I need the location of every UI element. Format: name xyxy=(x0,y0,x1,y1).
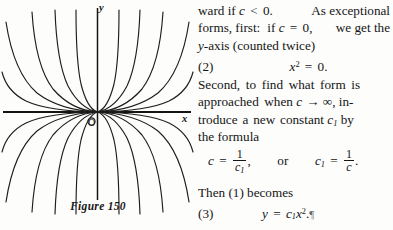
exponent-2: 2 xyxy=(295,60,299,69)
equation-3-tag: (3) xyxy=(198,205,224,222)
infinity-symbol: ∞ xyxy=(323,94,332,109)
origin-label: O xyxy=(88,117,95,128)
equation-2-rhs: 0. xyxy=(318,59,328,74)
equals-sign: = xyxy=(328,153,339,168)
equals-sign: = xyxy=(271,206,282,221)
period: . xyxy=(355,153,358,168)
parabola-curves-lower-right xyxy=(98,112,194,214)
line2-tail: we get the xyxy=(336,19,390,36)
var-c: c xyxy=(208,153,214,168)
fraction-one-over-c: 1 c xyxy=(344,148,354,173)
text-line-8: Then (1) becomes xyxy=(198,184,393,201)
comma: , xyxy=(247,153,250,168)
fraction-numerator: 1 xyxy=(233,148,247,160)
text-line-4: Second, to find what form is xyxy=(198,76,393,93)
var-y: y xyxy=(262,206,268,221)
text-line-3: y-axis (counted twice) xyxy=(198,37,393,54)
paragraph-mark-icon: ¶ xyxy=(309,208,314,220)
right-arrow-icon: → xyxy=(305,94,319,109)
line2-lead: forms, first xyxy=(198,20,257,35)
equals-sign: = xyxy=(217,153,228,168)
equation-3-row: (3) y = c1x2.¶ xyxy=(198,203,393,226)
parabola-curves-lower-left xyxy=(2,112,98,214)
fraction-equation-row: c = 1 c1 , or c1 = 1 c . xyxy=(198,148,393,176)
line2-if: if xyxy=(267,20,275,35)
text-line-5: approached when c → ∞, in- xyxy=(198,93,393,110)
line3-rest: -axis (counted twice) xyxy=(204,38,315,53)
line7-text: the formula xyxy=(198,129,259,144)
figure-panel: y x Figure 150 xyxy=(0,0,196,230)
y-axis-label: y xyxy=(99,2,104,13)
fraction-denominator: c1 xyxy=(233,161,247,175)
equals-sign: = xyxy=(288,20,299,35)
text-line-7: the formula xyxy=(198,128,393,145)
parabola-curves-upper-left xyxy=(2,10,98,112)
subscript-1: 1 xyxy=(333,119,337,128)
var-c: c xyxy=(239,3,245,18)
equation-2-body: x2 = 0. xyxy=(224,56,393,75)
equation-2-tag: (2) xyxy=(198,58,224,75)
fraction-equation-body: c = 1 c1 , or c1 = 1 c . xyxy=(198,148,393,176)
equals-sign: = xyxy=(303,59,314,74)
body-text-column: ward if c < 0. As exceptional forms, fir… xyxy=(198,0,393,230)
equation-2-row: (2) x2 = 0. xyxy=(198,56,393,75)
or-word: or xyxy=(277,153,288,168)
text-line-2: forms, first:if c = 0, we get the xyxy=(198,19,393,36)
equation-3-body: y = c1x2.¶ xyxy=(224,203,393,226)
less-than-sign: < xyxy=(248,3,259,18)
colon: : xyxy=(257,20,261,35)
fraction-denominator: c xyxy=(344,161,354,173)
text-line-1: ward if c < 0. As exceptional xyxy=(198,2,393,19)
fraction-one-over-c1: 1 c1 xyxy=(233,148,247,176)
parabola-family-diagram xyxy=(0,0,196,230)
figure-caption: Figure 150 xyxy=(0,200,196,212)
textbook-page-fragment: y x Figure 150 ward if c < 0. As excepti… xyxy=(0,0,393,230)
x-axis-label: x xyxy=(182,113,187,124)
line6-lead: troduce a new constant xyxy=(198,112,324,127)
var-c: c xyxy=(279,20,285,35)
fraction-numerator: 1 xyxy=(344,148,354,160)
line1-lead: ward if xyxy=(198,3,236,18)
line8-text: Then (1) becomes xyxy=(198,185,293,200)
parabola-curves-upper-right xyxy=(98,10,194,112)
var-c: c xyxy=(296,94,302,109)
line4-text: Second, to find what form is xyxy=(198,77,360,92)
line5-tail: , in- xyxy=(332,94,353,109)
line1-tail: As exceptional xyxy=(311,2,390,19)
subscript-1: 1 xyxy=(321,160,325,169)
line1-zero: 0. xyxy=(263,3,273,18)
line6-tail: by xyxy=(341,112,354,127)
line5-lead: approached when xyxy=(198,94,293,109)
line2-zero: 0, xyxy=(303,20,313,35)
